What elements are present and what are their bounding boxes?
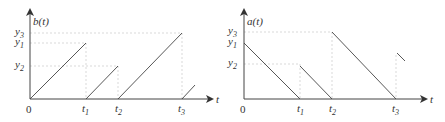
right-ylabel: a(t) <box>247 15 263 28</box>
diagram-canvas: b(t) t 0 y3 y1 y2 t1 t2 t3 a(t) t 0 y3 y… <box>0 0 445 122</box>
left-ytick-y2: y2 <box>14 58 24 73</box>
left-xtick-t1: t1 <box>82 102 89 117</box>
right-ytick-y2: y2 <box>227 56 237 71</box>
left-guides <box>30 33 182 99</box>
right-signal <box>244 32 405 99</box>
right-xtick-t1: t1 <box>297 102 304 117</box>
right-origin-label: 0 <box>240 103 246 115</box>
left-plot: b(t) t 0 y3 y1 y2 t1 t2 t3 <box>14 10 220 117</box>
left-xtick-t3: t3 <box>178 102 185 117</box>
right-plot: a(t) t 0 y3 y1 y2 t1 t2 t3 <box>227 10 434 117</box>
right-xtick-t2: t2 <box>329 102 336 117</box>
left-xlabel: t <box>216 93 220 105</box>
right-xtick-t3: t3 <box>392 102 399 117</box>
left-xtick-t2: t2 <box>115 102 122 117</box>
left-origin-label: 0 <box>26 103 32 115</box>
left-ylabel: b(t) <box>33 15 49 28</box>
right-xlabel: t <box>430 93 434 105</box>
